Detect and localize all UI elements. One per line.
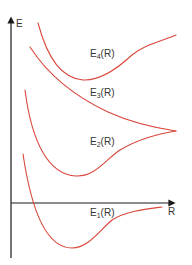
y-axis-label: E xyxy=(16,18,23,29)
label-e3: E3(R) xyxy=(90,87,114,99)
x-axis-label: R xyxy=(168,206,175,217)
curve-e1 xyxy=(23,154,162,248)
label-e4: E4(R) xyxy=(90,48,114,60)
label-e2: E2(R) xyxy=(90,136,114,148)
curve-e2 xyxy=(25,90,176,176)
potential-energy-diagram: E R E4(R) E3(R) E2(R) E1(R) xyxy=(0,0,192,265)
label-e1: E1(R) xyxy=(90,207,114,219)
